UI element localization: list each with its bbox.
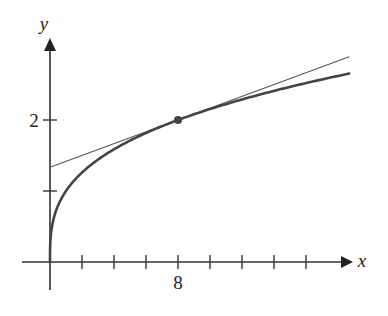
y-tick-label-2: 2 [29,110,39,131]
tangency-point [174,116,182,124]
y-axis-arrow-icon [44,38,56,51]
chart-canvas: y x 2 8 [0,0,388,316]
x-axis-label: x [357,250,367,271]
axes [22,38,353,290]
curve [50,74,349,262]
y-axis-label: y [38,13,49,34]
x-axis-arrow-icon [341,256,353,268]
x-tick-label-8: 8 [173,272,183,293]
